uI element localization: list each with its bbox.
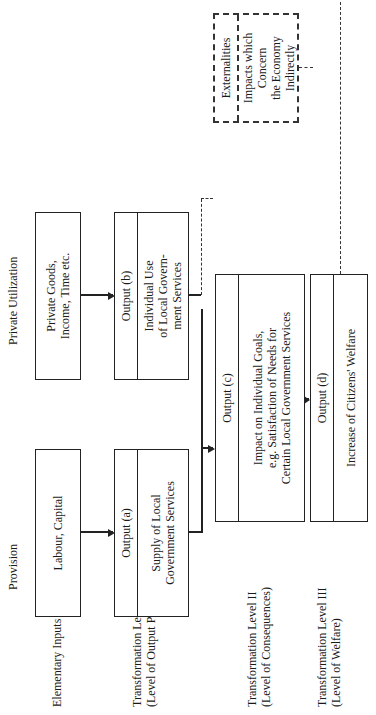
connector-to-output-c (201, 309, 203, 449)
diagram-canvas: Provision Private Utilization Elementary… (0, 0, 376, 715)
externalities-body: Impacts which Concern the Economy Indire… (239, 15, 299, 121)
dashed-connector-externalities-down (299, 67, 313, 68)
private-goods-box: Private Goods, Income, Time etc. (35, 212, 81, 380)
column-header-provision: Provision (6, 544, 20, 590)
column-header-private-utilization: Private Utilization (6, 257, 20, 345)
arrow-head-icon (208, 445, 215, 453)
row-label-elementary-inputs: Elementary Inputs (50, 619, 64, 707)
dashed-connector-to-output-d (340, 2, 341, 274)
output-b-box: Output (b) Individual Use of Local Gover… (114, 212, 189, 380)
output-b-title: Output (b) (115, 213, 138, 379)
output-c-title: Output (c) (216, 275, 239, 521)
row-label-transformation-level-3: Transformation Level III (Level of Welfa… (315, 587, 343, 707)
dashed-connector-horizontal (201, 199, 202, 295)
output-c-body: Impact on Individual Goals, e.g. Satisfa… (239, 275, 304, 521)
externalities-title: Externalities (215, 15, 239, 121)
externalities-box: Externalities Impacts which Concern the … (213, 13, 299, 123)
connector-output-a-down (189, 532, 201, 534)
dashed-connector-to-externalities (201, 198, 213, 199)
output-b-body: Individual Use of Local Govern- ment Ser… (138, 213, 188, 379)
labour-capital-box: Labour, Capital (35, 449, 81, 617)
output-a-box: Output (a) Supply of Local Government Se… (114, 449, 189, 617)
output-c-box: Output (c) Impact on Individual Goals, e… (215, 274, 305, 522)
row-label-transformation-level-2: Transformation Level II (Level of Conseq… (245, 587, 273, 707)
output-d-title: Output (d) (311, 275, 334, 521)
output-d-box: Output (d) Increase of Citizens' Welfare (310, 274, 368, 522)
output-d-body: Increase of Citizens' Welfare (334, 275, 367, 521)
connector-output-a-horizontal (201, 449, 203, 533)
connector-output-b-down (189, 295, 201, 297)
output-a-title: Output (a) (115, 450, 138, 616)
output-a-body: Supply of Local Government Services (138, 450, 188, 616)
